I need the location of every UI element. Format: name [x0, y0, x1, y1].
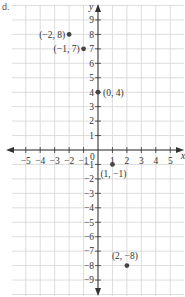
data-point [81, 46, 86, 51]
origin-label: 0 [90, 152, 95, 162]
x-tick-label: 2 [125, 156, 130, 166]
point-label: (−2, 8) [39, 30, 65, 41]
data-point [67, 32, 72, 37]
data-point [125, 263, 130, 268]
coordinate-plane: xy−5−4−3−2−112345987654321−1−2−3−4−5−6−7… [0, 0, 185, 297]
y-tick-label: −7 [84, 246, 94, 256]
y-tick-label: −3 [84, 189, 94, 199]
x-tick-label: 4 [153, 156, 158, 166]
y-tick-label: 7 [89, 44, 94, 54]
y-tick-label: 9 [89, 15, 94, 25]
y-axis-label: y [88, 2, 94, 12]
y-tick-label: 5 [89, 73, 94, 83]
data-point [96, 90, 101, 95]
x-tick-label: 5 [168, 156, 173, 166]
x-tick-label: −2 [64, 156, 74, 166]
point-label: (1, −1) [100, 169, 126, 180]
x-axis-label: x [180, 151, 185, 161]
y-tick-label: −9 [84, 275, 94, 285]
point-label: (2, −8) [112, 251, 138, 262]
x-tick-label: 3 [139, 156, 144, 166]
x-tick-label: −3 [50, 156, 60, 166]
y-tick-label: 1 [89, 131, 94, 141]
y-tick-label: 8 [89, 30, 94, 40]
y-tick-label: −2 [84, 174, 94, 184]
y-tick-label: 3 [89, 102, 94, 112]
y-tick-label: 2 [89, 116, 94, 126]
y-tick-label: 6 [89, 59, 94, 69]
x-tick-label: −4 [35, 156, 45, 166]
point-label: (−1, 7) [54, 44, 80, 55]
y-tick-label: −6 [84, 232, 94, 242]
y-tick-label: 4 [89, 88, 94, 98]
x-tick-label: −5 [21, 156, 31, 166]
y-tick-label: −4 [84, 203, 94, 213]
y-tick-label: −8 [84, 261, 94, 271]
y-tick-label: −5 [84, 218, 94, 228]
point-label: (0, 4) [103, 88, 124, 99]
x-axis-left-arrow-icon [6, 147, 14, 153]
data-point [110, 162, 115, 167]
